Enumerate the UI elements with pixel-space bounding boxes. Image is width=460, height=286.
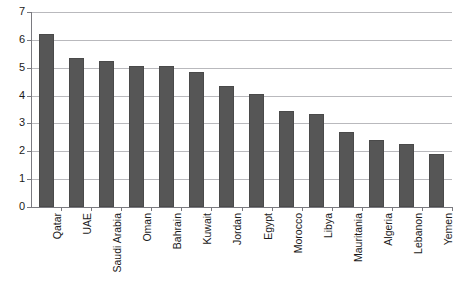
y-axis-tick bbox=[27, 151, 32, 152]
bar bbox=[309, 114, 324, 207]
y-axis-tick-label: 2 bbox=[3, 144, 25, 156]
y-axis-tick-label: 4 bbox=[3, 89, 25, 101]
x-axis-category-label: Yemen bbox=[442, 213, 454, 245]
bar bbox=[99, 61, 114, 207]
gridline bbox=[31, 96, 452, 97]
bar bbox=[399, 144, 414, 207]
y-axis-tick-label: 6 bbox=[3, 33, 25, 45]
chart-title bbox=[31, 0, 431, 2]
y-axis-tick bbox=[27, 40, 32, 41]
y-axis-tick bbox=[27, 207, 32, 208]
y-axis-tick bbox=[27, 68, 32, 69]
gridline bbox=[31, 68, 452, 69]
gridline bbox=[31, 179, 452, 180]
bar bbox=[69, 58, 84, 207]
x-axis-category-label: Libya bbox=[322, 213, 334, 238]
bar bbox=[369, 140, 384, 207]
x-axis-category-label: Jordan bbox=[231, 213, 243, 245]
x-axis-tick bbox=[302, 207, 303, 211]
x-axis-category-label: Kuwait bbox=[201, 213, 213, 245]
gridline bbox=[31, 151, 452, 152]
y-axis-tick-label: 7 bbox=[3, 5, 25, 17]
x-axis-category-label: Morocco bbox=[292, 213, 304, 253]
x-axis-category-label: Oman bbox=[141, 213, 153, 242]
x-axis-category-labels: QatarUAESaudi ArabiaOmanBahrainKuwaitJor… bbox=[31, 207, 452, 286]
y-axis-tick bbox=[27, 179, 32, 180]
y-axis-tick-label: 1 bbox=[3, 172, 25, 184]
bar bbox=[129, 66, 144, 207]
x-axis-tick bbox=[61, 207, 62, 211]
x-axis-tick bbox=[362, 207, 363, 211]
x-axis-category-label: UAE bbox=[81, 213, 93, 235]
bar bbox=[249, 94, 264, 207]
x-axis-tick bbox=[272, 207, 273, 211]
bar bbox=[339, 132, 354, 207]
x-axis-category-label: Saudi Arabia bbox=[111, 213, 123, 273]
x-axis-category-label: Qatar bbox=[51, 213, 63, 239]
x-axis-tick bbox=[242, 207, 243, 211]
x-axis-tick bbox=[332, 207, 333, 211]
x-axis-category-label: Mauritania bbox=[352, 213, 364, 262]
x-axis-category-label: Lebanon bbox=[412, 213, 424, 254]
gridline bbox=[31, 40, 452, 41]
x-axis-tick bbox=[422, 207, 423, 211]
bar bbox=[219, 86, 234, 207]
y-axis-tick-label: 0 bbox=[3, 200, 25, 212]
x-axis-tick bbox=[181, 207, 182, 211]
y-axis-tick-labels: 01234567 bbox=[0, 12, 25, 208]
bar bbox=[279, 111, 294, 207]
x-axis-tick bbox=[392, 207, 393, 211]
plot-area bbox=[31, 12, 452, 207]
x-axis-tick bbox=[151, 207, 152, 211]
bar bbox=[429, 154, 444, 207]
bar bbox=[39, 34, 54, 207]
bar bbox=[159, 66, 174, 207]
x-axis-tick bbox=[452, 207, 453, 211]
y-axis-tick bbox=[27, 12, 32, 13]
x-axis-category-label: Egypt bbox=[262, 213, 274, 240]
x-axis-tick bbox=[121, 207, 122, 211]
y-axis-tick bbox=[27, 123, 32, 124]
y-axis-tick-label: 5 bbox=[3, 61, 25, 73]
x-axis-tick bbox=[91, 207, 92, 211]
gridline bbox=[31, 12, 452, 13]
x-axis-tick bbox=[211, 207, 212, 211]
gridline bbox=[31, 123, 452, 124]
bar-chart: 01234567 QatarUAESaudi ArabiaOmanBahrain… bbox=[0, 0, 460, 286]
x-axis-category-label: Algeria bbox=[382, 213, 394, 246]
bar bbox=[189, 72, 204, 207]
x-axis-category-label: Bahrain bbox=[171, 213, 183, 249]
y-axis-tick-label: 3 bbox=[3, 116, 25, 128]
y-axis-tick bbox=[27, 96, 32, 97]
